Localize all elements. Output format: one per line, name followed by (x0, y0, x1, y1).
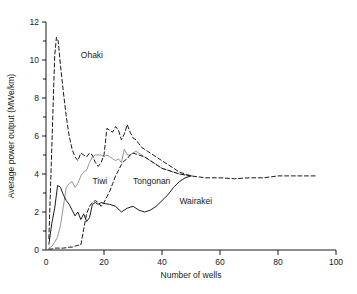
series-label-tiwi: Tiwi (92, 176, 107, 186)
x-tick-label: 0 (44, 257, 49, 267)
y-tick-label: 4 (34, 169, 39, 179)
chart-annotations: OhakiTiwiTongonanWairakei (81, 50, 212, 206)
y-tick-label: 6 (34, 131, 39, 141)
line-chart: 024681012020406080100Number of wellsAver… (0, 0, 357, 294)
series-label-ohaki: Ohaki (81, 50, 103, 60)
x-tick-label: 100 (329, 257, 343, 267)
series-line-wairakei (49, 176, 191, 244)
series-label-wairakei: Wairakei (179, 196, 212, 206)
y-tick-label: 12 (30, 17, 40, 27)
x-tick-label: 40 (157, 257, 167, 267)
x-tick-label: 80 (273, 257, 283, 267)
series-line-tongonan (49, 153, 191, 249)
y-tick-label: 0 (34, 245, 39, 255)
chart-figure: 024681012020406080100Number of wellsAver… (0, 0, 357, 294)
series-line-tiwi (49, 149, 191, 248)
x-axis-title: Number of wells (161, 270, 222, 280)
x-tick-label: 60 (215, 257, 225, 267)
chart-series-group (49, 37, 316, 249)
y-axis-title: Average power output (MWe/km) (6, 74, 16, 199)
y-tick-label: 10 (30, 55, 40, 65)
x-tick-label: 20 (99, 257, 109, 267)
series-label-tongonan: Tongonan (133, 176, 171, 186)
chart-axes: 024681012020406080100Number of wellsAver… (6, 17, 343, 280)
y-tick-label: 2 (34, 207, 39, 217)
y-tick-label: 8 (34, 93, 39, 103)
